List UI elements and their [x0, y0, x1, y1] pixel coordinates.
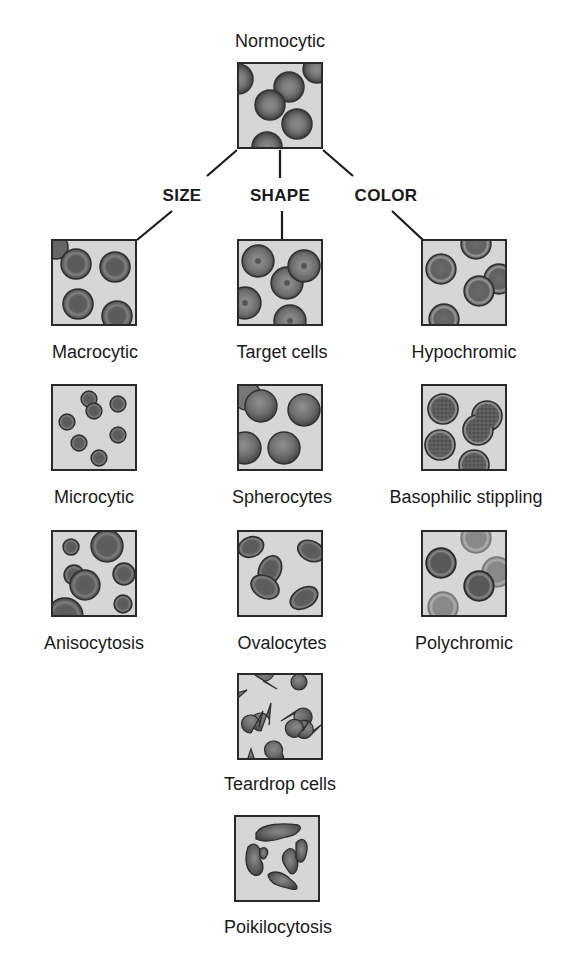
poikilocytosis-image	[234, 815, 320, 902]
hypochromic-image	[421, 239, 507, 326]
macrocytic-image	[51, 239, 137, 326]
poikilocytosis-label: Poikilocytosis	[224, 917, 332, 938]
spherocytes-image	[237, 384, 323, 471]
normocytic-image	[237, 62, 323, 149]
anisocytosis-label: Anisocytosis	[44, 633, 144, 654]
microcytic-label: Microcytic	[54, 487, 134, 508]
target-cells-image	[237, 239, 323, 326]
category-shape: SHAPE	[250, 186, 310, 206]
spherocytes-label: Spherocytes	[232, 487, 332, 508]
microcytic-image	[51, 384, 137, 471]
ovalocytes-image	[237, 530, 323, 617]
basophilic-stippling-label: Basophilic stippling	[389, 487, 542, 508]
normocytic-label: Normocytic	[235, 31, 325, 52]
category-size: SIZE	[163, 186, 202, 206]
teardrop-cells-image	[237, 673, 323, 760]
category-color: COLOR	[355, 186, 418, 206]
hypochromic-label: Hypochromic	[411, 342, 516, 363]
anisocytosis-image	[51, 530, 137, 617]
teardrop-cells-label: Teardrop cells	[224, 774, 336, 795]
target-cells-label: Target cells	[236, 342, 327, 363]
macrocytic-label: Macrocytic	[52, 342, 138, 363]
polychromic-label: Polychromic	[415, 633, 513, 654]
basophilic-stippling-image	[421, 384, 507, 471]
polychromic-image	[421, 530, 507, 617]
ovalocytes-label: Ovalocytes	[237, 633, 326, 654]
